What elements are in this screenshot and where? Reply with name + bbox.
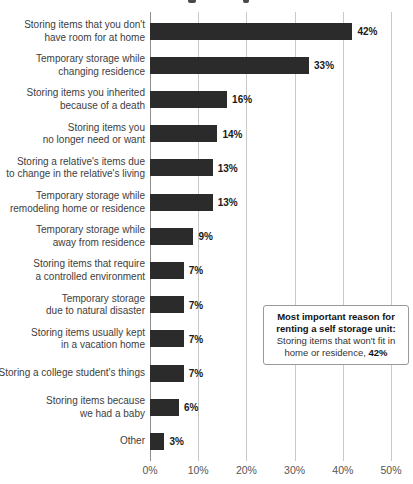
category-label: Temporary storage while remodeling home … bbox=[0, 190, 145, 215]
x-axis-tick-label: 40% bbox=[332, 464, 353, 476]
value-label: 33% bbox=[314, 60, 334, 71]
category-label: Storing a relative's items due to change… bbox=[0, 155, 145, 180]
category-label: Temporary storage while away from reside… bbox=[0, 224, 145, 249]
bar bbox=[150, 23, 352, 40]
gridline-30% bbox=[295, 12, 296, 461]
bar bbox=[150, 194, 213, 211]
x-axis-tick-label: 0% bbox=[142, 464, 157, 476]
category-label: Other bbox=[0, 435, 145, 448]
bar bbox=[150, 125, 217, 142]
bar bbox=[150, 365, 184, 382]
category-label: Storing items because we had a baby bbox=[0, 395, 145, 420]
value-label: 7% bbox=[189, 333, 203, 344]
gridline-20% bbox=[246, 12, 247, 461]
value-label: 16% bbox=[232, 94, 252, 105]
x-axis-tick-label: 20% bbox=[236, 464, 257, 476]
category-label: Storing items that require a controlled … bbox=[0, 258, 145, 283]
bar bbox=[150, 228, 193, 245]
annotation-normal-line-2-prefix: home or residence, bbox=[285, 347, 369, 358]
bar bbox=[150, 330, 184, 347]
bar bbox=[150, 433, 164, 450]
annotation-bold-line-2: renting a self storage unit: bbox=[267, 323, 405, 335]
x-axis-tick-label: 10% bbox=[188, 464, 209, 476]
annotation-bold-line-1: Most important reason for bbox=[267, 311, 405, 323]
value-label: 14% bbox=[222, 128, 242, 139]
category-label: Storing items you inherited because of a… bbox=[0, 87, 145, 112]
value-label: 7% bbox=[189, 265, 203, 276]
bar bbox=[150, 399, 179, 416]
annotation-normal-line-1: Storing items that won't fit in bbox=[267, 335, 405, 347]
bar-chart: 0%10%20%30%40%50% Storing items that you… bbox=[0, 0, 413, 484]
bar bbox=[150, 159, 213, 176]
value-label: 3% bbox=[169, 436, 183, 447]
value-label: 13% bbox=[218, 162, 238, 173]
category-label: Storing items usually kept in a vacation… bbox=[0, 326, 145, 351]
bar bbox=[150, 57, 309, 74]
category-label: Storing items that you don't have room f… bbox=[0, 19, 145, 44]
category-label: Storing items you no longer need or want bbox=[0, 121, 145, 146]
cropped-title-descender-mark bbox=[243, 0, 249, 3]
gridline-40% bbox=[343, 12, 344, 461]
bar bbox=[150, 91, 227, 108]
annotation-highlight-value: 42% bbox=[368, 347, 387, 358]
annotation-box: Most important reason for renting a self… bbox=[263, 305, 409, 365]
gridline-50% bbox=[391, 12, 392, 461]
value-label: 13% bbox=[218, 197, 238, 208]
value-label: 9% bbox=[198, 231, 212, 242]
cropped-title-descender-mark bbox=[188, 0, 196, 3]
annotation-normal-line-2: home or residence, 42% bbox=[267, 347, 405, 359]
category-label: Temporary storage while changing residen… bbox=[0, 53, 145, 78]
bar bbox=[150, 262, 184, 279]
category-label: Storing a college student's things bbox=[0, 367, 145, 380]
category-label: Temporary storage due to natural disaste… bbox=[0, 292, 145, 317]
x-axis-tick-label: 50% bbox=[380, 464, 401, 476]
bar bbox=[150, 296, 184, 313]
value-label: 7% bbox=[189, 368, 203, 379]
value-label: 7% bbox=[189, 299, 203, 310]
x-axis-tick-label: 30% bbox=[284, 464, 305, 476]
value-label: 6% bbox=[184, 402, 198, 413]
value-label: 42% bbox=[357, 26, 377, 37]
